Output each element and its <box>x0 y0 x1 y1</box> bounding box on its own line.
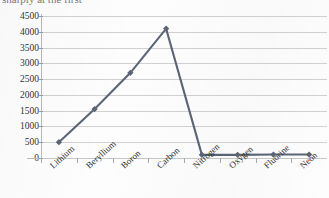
line-chart: sharply at the first 0500100015002000250… <box>0 0 329 198</box>
y-axis-tick-mark <box>39 63 43 64</box>
x-axis-tick-mark <box>256 158 257 163</box>
y-axis-tick-mark <box>39 111 43 112</box>
x-axis-tick-mark <box>220 158 221 163</box>
series-line <box>59 29 309 155</box>
y-axis-tick-mark <box>39 32 43 33</box>
x-axis-tick-mark <box>184 158 185 163</box>
y-axis-tick-mark <box>39 95 43 96</box>
y-axis-tick-mark <box>39 16 43 17</box>
x-axis-tick-mark <box>148 158 149 163</box>
series-layer <box>0 0 329 198</box>
y-axis-tick-mark <box>39 79 43 80</box>
y-axis-tick-mark <box>39 48 43 49</box>
y-axis-tick-mark <box>39 142 43 143</box>
x-axis-tick-mark <box>113 158 114 163</box>
x-axis-tick-mark <box>77 158 78 163</box>
x-axis-tick-mark <box>41 158 42 163</box>
y-axis-tick-mark <box>39 126 43 127</box>
x-axis-tick-mark <box>291 158 292 163</box>
